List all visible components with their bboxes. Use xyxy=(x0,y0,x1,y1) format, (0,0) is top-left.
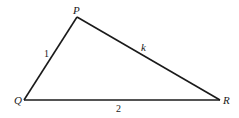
side-pr xyxy=(77,17,220,100)
vertex-label-q: Q xyxy=(14,94,22,106)
triangle-diagram: P Q R 1 k 2 xyxy=(0,0,239,118)
vertex-label-r: R xyxy=(222,94,230,106)
side-label-pr: k xyxy=(141,41,147,53)
vertex-label-p: P xyxy=(72,4,80,16)
triangle-svg: P Q R 1 k 2 xyxy=(0,0,239,118)
side-label-qr: 2 xyxy=(116,103,121,114)
side-label-qp: 1 xyxy=(44,48,49,59)
side-qp xyxy=(24,17,77,100)
